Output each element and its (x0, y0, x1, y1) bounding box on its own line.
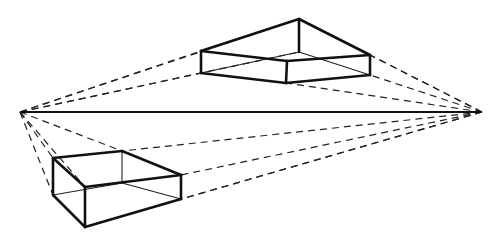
lower-box-edge (85, 175, 181, 187)
lower-box-edge (53, 158, 85, 187)
construction-line (286, 83, 482, 112)
upper-box-edge (201, 51, 287, 61)
upper-box-edge (287, 55, 370, 61)
construction-line (370, 75, 482, 112)
upper-box-edge (286, 75, 370, 83)
upper-box-edge (201, 73, 286, 83)
upper-box-hidden-edge (201, 52, 299, 73)
box-edges (53, 19, 370, 227)
perspective-diagram: Two-point perspective: boxes above and b… (0, 0, 496, 242)
construction-lines (20, 19, 482, 227)
construction-line (181, 112, 482, 175)
lower-box-edge (53, 195, 85, 227)
upper-box-edge (286, 61, 287, 83)
lower-box-edge (53, 151, 122, 158)
construction-line (122, 112, 482, 151)
lower-box-edge (122, 151, 181, 175)
diagram-canvas (0, 0, 496, 242)
upper-box-edge (299, 19, 370, 55)
upper-box-edge (201, 19, 299, 51)
lower-box-edge (85, 199, 181, 227)
construction-line (20, 112, 53, 195)
lower-box-hidden-edge (122, 183, 181, 199)
construction-line (20, 112, 122, 151)
